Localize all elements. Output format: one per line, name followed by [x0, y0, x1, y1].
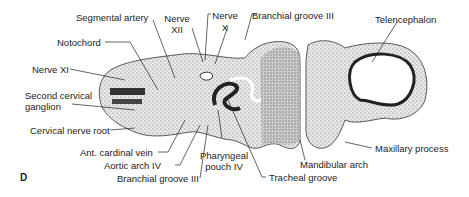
label-maxillary-process: Maxillary process [375, 143, 448, 154]
label-nerve-x-line2: X [210, 22, 240, 33]
label-telencephalon: Telencephalon [375, 14, 436, 25]
label-nerve-xii-line2: XII [162, 24, 192, 35]
label-notochord: Notochord [57, 37, 101, 48]
label-nerve-xii-line1: Nerve [162, 13, 192, 24]
label-tracheal-groove: Tracheal groove [269, 172, 337, 183]
label-aortic-arch-iv: Aortic arch IV [104, 160, 161, 171]
label-pharyngeal-pouch-line2: pouch IV [200, 161, 248, 172]
ganglion-shape [112, 99, 142, 104]
label-segmental-artery: Segmental artery [76, 12, 148, 23]
ganglion-shape [110, 88, 145, 95]
label-second-cervical-line2: ganglion [25, 101, 61, 112]
vessel-shape [200, 72, 213, 80]
label-branchial-groove-bottom: Branchial groove III [117, 173, 199, 184]
label-nerve-xi: Nerve XI [32, 64, 69, 75]
mandibular-region [260, 47, 300, 145]
label-second-cervical-line1: Second cervical [25, 90, 92, 101]
label-cervical-nerve-root: Cervical nerve root [30, 125, 110, 136]
label-nerve-x-line1: Nerve [210, 10, 240, 21]
label-pharyngeal-pouch-line1: Pharyngeal [200, 150, 248, 161]
panel-letter: D [20, 172, 27, 183]
label-branchial-groove-top: Branchial groove III [252, 10, 334, 21]
telencephalon-ventricle [350, 54, 415, 105]
label-ant-cardinal-vein: Ant. cardinal vein [80, 147, 153, 158]
label-mandibular-arch: Mandibular arch [300, 159, 368, 170]
